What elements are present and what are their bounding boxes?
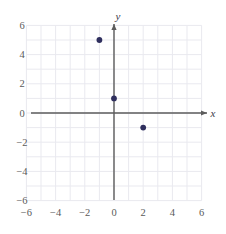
scatter-plot-svg: −6−4−20246 6420−2−4−6 x y (−1, 5)(0, 1)(… xyxy=(0,0,226,234)
x-axis-label: x xyxy=(210,107,216,119)
x-axis-tick-labels: −6−4−20246 xyxy=(21,207,204,218)
data-point: (2, −1) xyxy=(140,125,146,131)
x-tick-label: 4 xyxy=(170,207,176,218)
x-tick-label: 2 xyxy=(141,207,146,218)
coordinate-plane-figure: −6−4−20246 6420−2−4−6 x y (−1, 5)(0, 1)(… xyxy=(0,0,226,234)
x-tick-label: 6 xyxy=(199,207,204,218)
y-tick-label: −2 xyxy=(16,137,27,148)
y-axis-label: y xyxy=(115,10,121,22)
y-tick-label: −6 xyxy=(16,195,27,206)
y-tick-label: −4 xyxy=(16,166,28,177)
y-tick-label: 0 xyxy=(19,108,24,119)
x-tick-label: −6 xyxy=(21,207,32,218)
x-tick-label: −2 xyxy=(79,207,90,218)
y-tick-label: 4 xyxy=(19,49,25,60)
x-tick-label: 0 xyxy=(111,207,116,218)
x-axis-arrowhead xyxy=(201,110,207,115)
x-tick-label: −4 xyxy=(50,207,62,218)
y-tick-label: 6 xyxy=(19,20,24,31)
y-tick-label: 2 xyxy=(19,78,24,89)
axes xyxy=(31,24,207,200)
data-point: (0, 1) xyxy=(111,96,117,102)
data-point: (−1, 5) xyxy=(97,37,103,43)
